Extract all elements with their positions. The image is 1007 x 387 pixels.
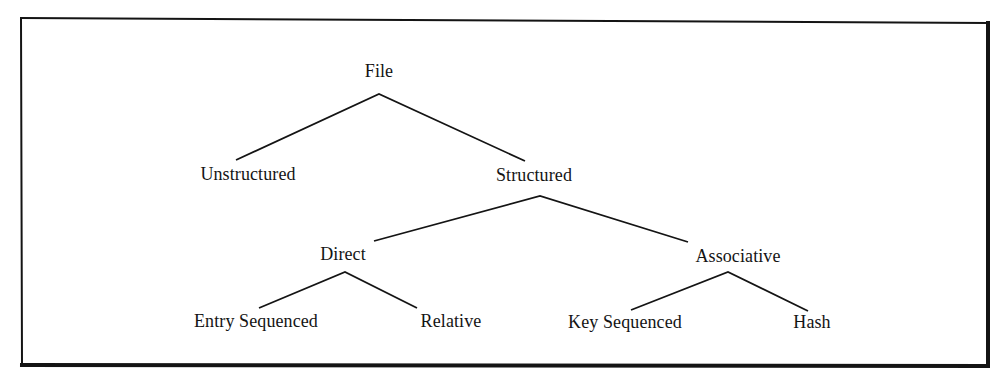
edge-file-children	[236, 94, 525, 161]
node-file: File	[365, 61, 393, 81]
node-key-sequenced: Key Sequenced	[568, 312, 682, 332]
node-direct: Direct	[320, 244, 366, 264]
node-entry-sequenced: Entry Sequenced	[194, 311, 318, 331]
edge-associative-children	[631, 272, 808, 311]
node-unstructured: Unstructured	[200, 164, 295, 184]
border-left	[21, 18, 22, 364]
node-relative: Relative	[421, 311, 482, 331]
tree-edges	[236, 94, 808, 311]
border-bottom	[22, 365, 988, 366]
edge-structured-children	[374, 196, 688, 242]
diagram-canvas	[0, 0, 1007, 387]
border-top	[21, 18, 988, 23]
node-associative: Associative	[695, 246, 780, 266]
border-box	[21, 18, 988, 366]
edge-direct-children	[259, 272, 417, 308]
node-hash: Hash	[793, 312, 830, 332]
node-structured: Structured	[496, 165, 572, 185]
